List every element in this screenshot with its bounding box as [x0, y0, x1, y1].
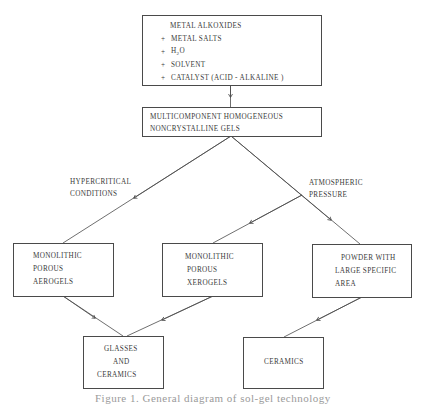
xerogels-line-0: MONOLITHIC — [185, 254, 234, 261]
label-pressure: PRESSURE — [309, 192, 347, 199]
inputs-box: METAL ALKOXIDES + METAL SALTS + H2O + SO… — [142, 15, 322, 86]
glasses-line-2: CERAMICS — [97, 372, 137, 379]
inputs-line-4: CATALYST (ACID - ALKALINE ) — [171, 75, 284, 82]
powder-line-0: POWDER WITH — [341, 255, 396, 262]
label-atmospheric: ATMOSPHERIC — [309, 180, 363, 187]
gels-box: MULTICOMPONENT HOMOGENEOUS NONCRYSTALLIN… — [142, 107, 322, 137]
gels-line-1: NONCRYSTALLINE GELS — [150, 126, 240, 133]
powder-line-2: AREA — [335, 281, 356, 288]
glasses-line-1: AND — [113, 359, 130, 366]
glasses-ceramics-box: GLASSES AND CERAMICS — [83, 336, 164, 389]
bullet-plus: + — [161, 75, 165, 82]
xerogels-line-2: XEROGELS — [187, 280, 227, 287]
ceramics-box: CERAMICS — [243, 337, 324, 389]
bullet-plus: + — [161, 62, 165, 69]
aerogels-line-0: MONOLITHIC — [33, 253, 82, 260]
aerogels-line-2: AEROGELS — [33, 279, 73, 286]
xerogels-line-1: POROUS — [187, 267, 217, 274]
label-hypercritical: HYPERCRITICAL — [70, 179, 131, 186]
inputs-line-2: H2O — [171, 48, 185, 56]
gels-line-0: MULTICOMPONENT HOMOGENEOUS — [150, 114, 283, 121]
ceramics-line-0: CERAMICS — [264, 359, 304, 366]
bullet-plus: + — [161, 36, 165, 43]
inputs-line-1: METAL SALTS — [171, 36, 222, 43]
aerogels-line-1: POROUS — [33, 266, 63, 273]
inputs-line-3: SOLVENT — [171, 62, 206, 69]
figure-caption: Figure 1. General diagram of sol-gel tec… — [95, 392, 331, 404]
bullet-plus: + — [161, 49, 165, 56]
inputs-line-0: METAL ALKOXIDES — [170, 23, 242, 30]
aerogels-box: MONOLITHIC POROUS AEROGELS — [13, 243, 114, 297]
label-conditions: CONDITIONS — [70, 191, 117, 198]
xerogels-box: MONOLITHIC POROUS XEROGELS — [162, 243, 263, 297]
powder-line-1: LARGE SPECIFIC — [335, 268, 396, 275]
glasses-line-0: GLASSES — [104, 346, 138, 353]
powder-box: POWDER WITH LARGE SPECIFIC AREA — [312, 244, 412, 298]
